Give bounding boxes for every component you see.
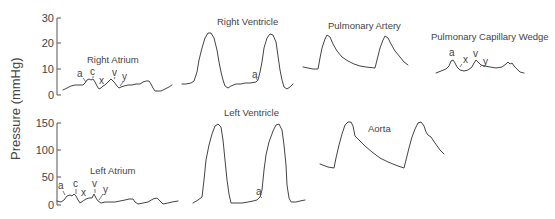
top-y-axis: 30 20 10 0 — [42, 12, 61, 101]
tick-0: 0 — [48, 89, 54, 101]
label-x: x — [81, 187, 86, 198]
left-atrium-waveform — [57, 194, 178, 204]
label-v: v — [473, 48, 478, 59]
panel-left-atrium: Left Atrium a c x v y — [57, 165, 178, 204]
label-a: a — [256, 186, 262, 197]
right-atrium-waveform — [63, 79, 172, 91]
tick-100: 100 — [36, 144, 54, 156]
cardiac-pressure-waveform-chart: Pressure (mmHg) 30 20 10 0 Right Atrium … — [0, 0, 555, 219]
panel-right-atrium: Right Atrium a c x v y — [63, 54, 172, 91]
label-v: v — [92, 178, 97, 189]
chart-canvas: 30 20 10 0 Right Atrium a c x v y Right … — [0, 0, 555, 219]
panel-pulmonary-artery: Pulmonary Artery — [303, 20, 408, 69]
tick-50: 50 — [42, 171, 54, 183]
tick-30: 30 — [42, 12, 54, 24]
tick-0: 0 — [48, 199, 54, 211]
y-axis-label: Pressure (mmHg) — [8, 60, 24, 160]
panel-title-right-atrium: Right Atrium — [87, 54, 139, 65]
panel-aorta: Aorta — [320, 122, 444, 168]
panel-title-left-ventricle: Left Ventricle — [224, 107, 279, 118]
label-c: c — [90, 66, 95, 77]
panel-title-pulmonary-capillary-wedge: Pulmonary Capillary Wedge — [431, 31, 549, 42]
label-y: y — [103, 184, 108, 195]
tick-150: 150 — [36, 117, 54, 129]
label-a: a — [77, 68, 83, 79]
panel-pulmonary-capillary-wedge: Pulmonary Capillary Wedge a x v y — [431, 31, 549, 73]
label-a: a — [58, 180, 64, 191]
label-x: x — [463, 54, 468, 65]
panel-title-left-atrium: Left Atrium — [90, 165, 135, 176]
panel-title-pulmonary-artery: Pulmonary Artery — [328, 20, 401, 31]
label-c: c — [73, 178, 78, 189]
label-y: y — [122, 71, 127, 82]
label-y: y — [483, 56, 488, 67]
left-ventricle-waveform — [193, 124, 305, 203]
label-x: x — [99, 75, 104, 86]
right-ventricle-waveform — [182, 33, 293, 89]
panel-title-right-ventricle: Right Ventricle — [217, 16, 278, 27]
tick-20: 20 — [42, 37, 54, 49]
label-a: a — [252, 69, 258, 80]
label-v: v — [112, 67, 117, 78]
bottom-y-axis: 150 100 50 0 — [36, 117, 61, 211]
label-a: a — [449, 47, 455, 58]
tick-10: 10 — [42, 63, 54, 75]
panel-right-ventricle: Right Ventricle a — [182, 16, 293, 89]
panel-left-ventricle: Left Ventricle a — [193, 107, 305, 203]
panel-title-aorta: Aorta — [368, 123, 391, 134]
pulmonary-artery-waveform — [303, 35, 408, 69]
